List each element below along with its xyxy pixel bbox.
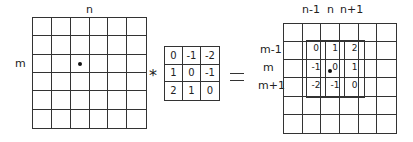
grid-cell (321, 97, 340, 115)
grid-cell (127, 91, 146, 109)
output-center-dot (328, 69, 332, 73)
kernel-matrix: 0-1-210-1210 (164, 46, 220, 101)
grid-cell (52, 36, 71, 54)
output-row-label-m-minus-1: m-1 (260, 44, 282, 55)
grid-cell (33, 55, 52, 73)
grid-cell (33, 18, 52, 36)
grid-cell (359, 115, 378, 133)
kernel-cell: 1 (183, 82, 201, 100)
grid-cell (90, 73, 109, 91)
kernel-cell: 1 (165, 65, 183, 83)
grid-cell (127, 110, 146, 128)
output-row-label-m-plus-1: m+1 (258, 80, 285, 91)
grid-cell (127, 55, 146, 73)
grid-cell (127, 36, 146, 54)
grid-cell (71, 18, 90, 36)
grid-cell (90, 91, 109, 109)
grid-cell (52, 55, 71, 73)
grid-cell (303, 97, 322, 115)
grid-cell (33, 91, 52, 109)
grid-cell (108, 73, 127, 91)
overlay-cell: 1 (326, 41, 345, 60)
grid-cell (71, 91, 90, 109)
kernel-cell: 0 (165, 47, 183, 65)
grid-cell (52, 18, 71, 36)
grid-cell (377, 78, 396, 96)
grid-cell (71, 110, 90, 128)
grid-cell (108, 55, 127, 73)
grid-cell (33, 73, 52, 91)
grid-cell (90, 18, 109, 36)
grid-cell (284, 60, 303, 78)
kernel-cell: -1 (201, 65, 219, 83)
overlay-cell: 2 (345, 41, 364, 60)
output-col-label-n: n (327, 4, 334, 15)
grid-cell (359, 97, 378, 115)
grid-cell (377, 115, 396, 133)
kernel-cell: 0 (201, 82, 219, 100)
output-row-label-m: m (263, 62, 274, 73)
equals-sign (230, 73, 244, 81)
kernel-cell: 0 (183, 65, 201, 83)
grid-cell (33, 36, 52, 54)
input-row-label: m (15, 58, 26, 69)
grid-cell (33, 110, 52, 128)
grid-cell (71, 36, 90, 54)
grid-cell (52, 91, 71, 109)
grid-cell (377, 42, 396, 60)
grid-cell (108, 18, 127, 36)
grid-cell (377, 24, 396, 42)
input-center-dot (78, 62, 82, 66)
overlay-cell: 0 (345, 78, 364, 97)
grid-cell (377, 97, 396, 115)
overlay-cell: -1 (326, 78, 345, 97)
grid-cell (284, 78, 303, 96)
grid-cell (71, 73, 90, 91)
grid-cell (108, 36, 127, 54)
grid-cell (321, 115, 340, 133)
grid-cell (90, 110, 109, 128)
kernel-cell: -1 (183, 47, 201, 65)
grid-cell (340, 97, 359, 115)
input-col-label: n (86, 4, 93, 15)
grid-cell (108, 91, 127, 109)
grid-cell (303, 115, 322, 133)
output-col-label-n-plus-1: n+1 (340, 4, 363, 15)
grid-cell (108, 110, 127, 128)
input-grid (32, 17, 147, 129)
overlay-cell: -2 (307, 78, 326, 97)
grid-cell (284, 97, 303, 115)
overlay-cell: 1 (345, 60, 364, 79)
grid-cell (377, 60, 396, 78)
kernel-cell: -2 (201, 47, 219, 65)
output-col-label-n-minus-1: n-1 (302, 4, 320, 15)
overlay-cell: 0 (307, 41, 326, 60)
grid-cell (284, 24, 303, 42)
grid-cell (90, 36, 109, 54)
grid-cell (127, 18, 146, 36)
overlay-cell: -1 (307, 60, 326, 79)
convolution-operator: * (149, 66, 157, 85)
grid-cell (284, 42, 303, 60)
grid-cell (90, 55, 109, 73)
grid-cell (127, 73, 146, 91)
grid-cell (284, 115, 303, 133)
grid-cell (52, 110, 71, 128)
grid-cell (340, 115, 359, 133)
grid-cell (52, 73, 71, 91)
flipped-kernel-overlay: 012-101-2-10 (306, 40, 365, 98)
kernel-cell: 2 (165, 82, 183, 100)
